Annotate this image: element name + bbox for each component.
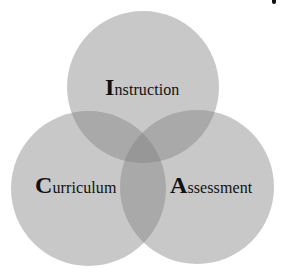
label-instruction-rest: nstruction bbox=[114, 81, 179, 98]
venn-diagram: Instruction Curriculum Assessment bbox=[0, 0, 285, 280]
label-assessment-rest: ssessment bbox=[187, 179, 252, 196]
label-curriculum: Curriculum bbox=[35, 173, 116, 197]
label-assessment: Assessment bbox=[170, 173, 252, 197]
label-assessment-initial: A bbox=[170, 172, 187, 198]
label-curriculum-initial: C bbox=[35, 172, 52, 198]
label-instruction: Instruction bbox=[105, 75, 179, 99]
label-curriculum-rest: urriculum bbox=[52, 179, 116, 196]
cropped-text-fragment bbox=[272, 0, 276, 4]
